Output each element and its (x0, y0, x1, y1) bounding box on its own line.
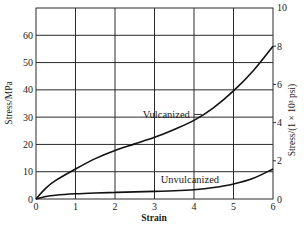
right-y-tick-label: 0 (277, 194, 282, 205)
right-y-tick-label: 10 (277, 2, 287, 13)
x-tick-label: 4 (192, 201, 197, 212)
x-tick-label: 5 (231, 201, 236, 212)
y-tick-label: 30 (23, 112, 33, 123)
left-y-axis-ticks: 0102030405060 (23, 30, 33, 205)
x-tick-label: 3 (152, 201, 157, 212)
x-axis-ticks: 0123456 (34, 201, 276, 212)
right-y-axis-label: Stress/(1 × 10³ psi) (287, 84, 298, 156)
y-tick-label: 40 (23, 84, 33, 95)
stress-strain-chart: 0123456 0102030405060 0246810 Vulcanized… (0, 0, 304, 229)
y-tick-label: 20 (23, 139, 33, 150)
right-y-tick-label: 2 (277, 155, 282, 166)
x-tick-label: 2 (113, 201, 118, 212)
x-tick-label: 6 (271, 201, 276, 212)
right-y-tick-label: 6 (277, 79, 282, 90)
vulcanized-label: Vulcanized (143, 109, 191, 120)
right-y-axis-ticks: 0246810 (273, 2, 287, 205)
x-tick-label: 1 (73, 201, 78, 212)
right-y-tick-label: 8 (277, 41, 282, 52)
y-tick-label: 10 (23, 166, 33, 177)
y-tick-label: 0 (28, 194, 33, 205)
left-y-axis-label: Stress/MPa (4, 81, 14, 125)
unvulcanized-label: Unvulcanized (161, 174, 220, 185)
x-tick-label: 0 (34, 201, 39, 212)
y-tick-label: 50 (23, 57, 33, 68)
x-axis-label: Strain (141, 213, 167, 223)
y-tick-label: 60 (23, 30, 33, 41)
right-y-tick-label: 4 (277, 117, 282, 128)
